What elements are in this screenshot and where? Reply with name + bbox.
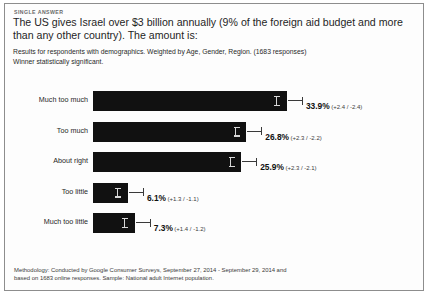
bar [93, 91, 287, 111]
error-bar-marker [117, 188, 118, 198]
error-bar-marker [235, 127, 236, 137]
value-leader-line [129, 192, 143, 193]
single-answer-kicker: SINGLE ANSWER [14, 9, 63, 15]
survey-result-card: SINGLE ANSWER The US gives Israel over $… [4, 3, 424, 291]
bar-track: 33.9%(+2.4 / -2.4) [93, 88, 424, 114]
bar-value-label: 33.9%(+2.4 / -2.4) [306, 95, 362, 113]
bar-margin-of-error: (+2.4 / -2.4) [331, 104, 362, 110]
value-leader-cap [302, 97, 303, 105]
bar-margin-of-error: (+2.3 / -2.1) [285, 165, 316, 171]
value-leader-cap [256, 158, 257, 166]
bar [93, 213, 135, 233]
bar-value-percent: 33.9% [306, 101, 330, 111]
bar-category-label: Much too little [4, 217, 88, 226]
methodology-line-1: Methodology: Conducted by Google Consume… [14, 266, 418, 275]
bar [93, 122, 246, 142]
value-leader-cap [261, 127, 262, 135]
bar-track: 26.8%(+2.3 / -2.2) [93, 119, 424, 145]
chart-row: Too much26.8%(+2.3 / -2.2) [5, 119, 424, 145]
bar-category-label: About right [4, 156, 88, 165]
bar-category-label: Too little [4, 187, 88, 196]
chart-row: Much too much33.9%(+2.4 / -2.4) [5, 88, 424, 114]
error-bar-marker [124, 218, 125, 228]
bar-track: 7.3%(+1.4 / -1.2) [93, 210, 424, 236]
bar-value-label: 26.8%(+2.3 / -2.2) [265, 126, 321, 144]
bar-value-label: 25.9%(+2.3 / -2.1) [260, 156, 316, 174]
bar-margin-of-error: (+1.3 / -1.1) [167, 196, 198, 202]
bar [93, 183, 128, 203]
methodology-footer: Methodology: Conducted by Google Consume… [14, 266, 418, 283]
bar-value-percent: 26.8% [265, 132, 289, 142]
results-subnote: Results for respondents with demographic… [13, 47, 417, 68]
value-leader-line [242, 161, 256, 162]
bar [93, 152, 241, 172]
value-leader-line [288, 100, 302, 101]
bar-margin-of-error: (+1.4 / -1.2) [174, 226, 205, 232]
bar-margin-of-error: (+2.3 / -2.2) [291, 135, 322, 141]
methodology-line-2: based on 1683 online responses. Sample: … [14, 274, 418, 283]
error-bar-marker [230, 157, 231, 167]
bar-value-percent: 7.3% [154, 223, 173, 233]
results-demographics-line: Results for respondents with demographic… [13, 47, 417, 57]
value-leader-line [247, 131, 261, 132]
error-bar-marker [276, 96, 277, 106]
bar-value-percent: 6.1% [147, 193, 166, 203]
bar-category-label: Too much [4, 126, 88, 135]
winner-significance-line: Winner statistically significant. [13, 57, 417, 67]
bar-value-label: 7.3%(+1.4 / -1.2) [154, 217, 206, 235]
chart-row: About right25.9%(+2.3 / -2.1) [5, 149, 424, 175]
value-leader-cap [143, 188, 144, 196]
value-leader-line [136, 222, 150, 223]
bar-value-label: 6.1%(+1.3 / -1.1) [147, 187, 199, 205]
chart-row: Much too little7.3%(+1.4 / -1.2) [5, 210, 424, 236]
horizontal-bar-chart: Much too much33.9%(+2.4 / -2.4)Too much2… [5, 88, 424, 246]
chart-row: Too little6.1%(+1.3 / -1.1) [5, 180, 424, 206]
bar-value-percent: 25.9% [260, 162, 284, 172]
bar-track: 6.1%(+1.3 / -1.1) [93, 180, 424, 206]
value-leader-cap [150, 219, 151, 227]
page-title: The US gives Israel over $3 billion annu… [13, 16, 417, 41]
bar-category-label: Much too much [4, 95, 88, 104]
bar-track: 25.9%(+2.3 / -2.1) [93, 149, 424, 175]
